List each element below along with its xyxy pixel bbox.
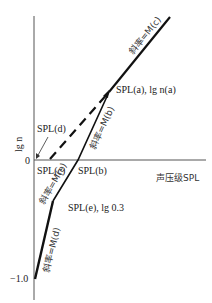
slope-d-label: 斜率=M(d) bbox=[40, 226, 62, 273]
point-b-label: SPL(b) bbox=[78, 165, 107, 177]
y-axis-label: lg n bbox=[13, 137, 24, 152]
point-d-label: SPL(d) bbox=[37, 123, 66, 135]
point-a-label: SPL(a), lg n(a) bbox=[116, 84, 176, 96]
pointer-line-d bbox=[37, 137, 48, 157]
pointer-arrow-icon bbox=[36, 153, 40, 159]
curve-segment-c bbox=[109, 17, 170, 92]
diagram-canvas: lg n 0 −1.0 声压级SPL SPL(a), lg n(a) SPL(d… bbox=[0, 0, 212, 303]
x-axis-label: 声压级SPL bbox=[156, 172, 199, 183]
y-tick-minus-one: −1.0 bbox=[10, 273, 28, 284]
point-e-label: SPL(e), lg 0.3 bbox=[68, 202, 124, 214]
y-tick-zero: 0 bbox=[25, 155, 30, 166]
